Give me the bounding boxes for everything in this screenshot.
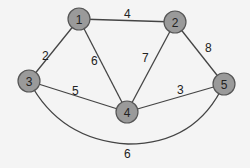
graph-diagram: 4 2 6 7 8 5 3 6 1 2 3 4 <box>0 0 250 168</box>
edge-1-3 <box>29 19 79 81</box>
edge-weight-2-4: 7 <box>142 51 149 65</box>
edge-weight-2-5: 8 <box>205 41 212 55</box>
node-label-1: 1 <box>76 13 83 27</box>
node-5: 5 <box>213 73 235 95</box>
edge-2-4 <box>127 22 175 112</box>
edge-2-5 <box>175 22 224 84</box>
edge-weight-1-2: 4 <box>124 7 131 21</box>
node-label-4: 4 <box>124 106 131 120</box>
nodes-layer: 1 2 3 4 5 <box>18 8 235 123</box>
graph-svg: 4 2 6 7 8 5 3 6 1 2 3 4 <box>0 0 250 168</box>
node-label-3: 3 <box>26 75 33 89</box>
edge-1-4 <box>79 19 127 112</box>
node-label-2: 2 <box>172 16 179 30</box>
edge-weight-1-3: 2 <box>42 49 49 63</box>
edge-weight-1-4: 6 <box>91 54 98 68</box>
edge-weight-3-4: 5 <box>72 84 79 98</box>
edge-weight-3-5: 6 <box>124 147 131 161</box>
node-1: 1 <box>68 8 90 30</box>
edge-weight-4-5: 3 <box>177 83 184 97</box>
node-label-5: 5 <box>221 78 228 92</box>
edges-layer <box>29 19 224 144</box>
edge-labels-layer: 4 2 6 7 8 5 3 6 <box>42 7 212 161</box>
node-3: 3 <box>18 70 40 92</box>
node-4: 4 <box>116 101 138 123</box>
node-2: 2 <box>164 11 186 33</box>
